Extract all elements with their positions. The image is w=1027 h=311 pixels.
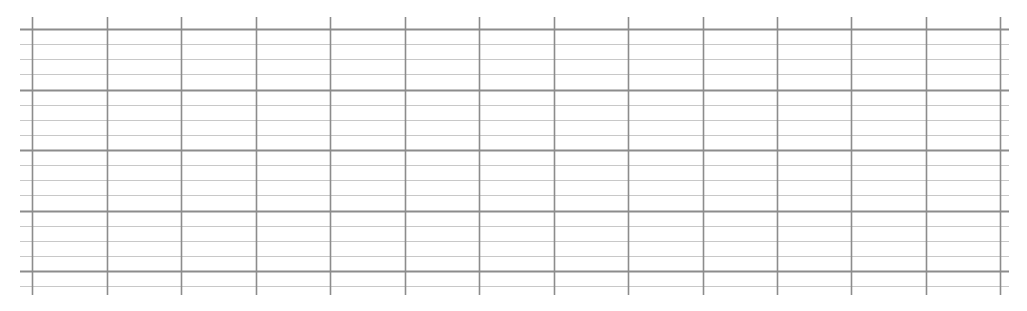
blank-grid [0, 0, 1027, 311]
